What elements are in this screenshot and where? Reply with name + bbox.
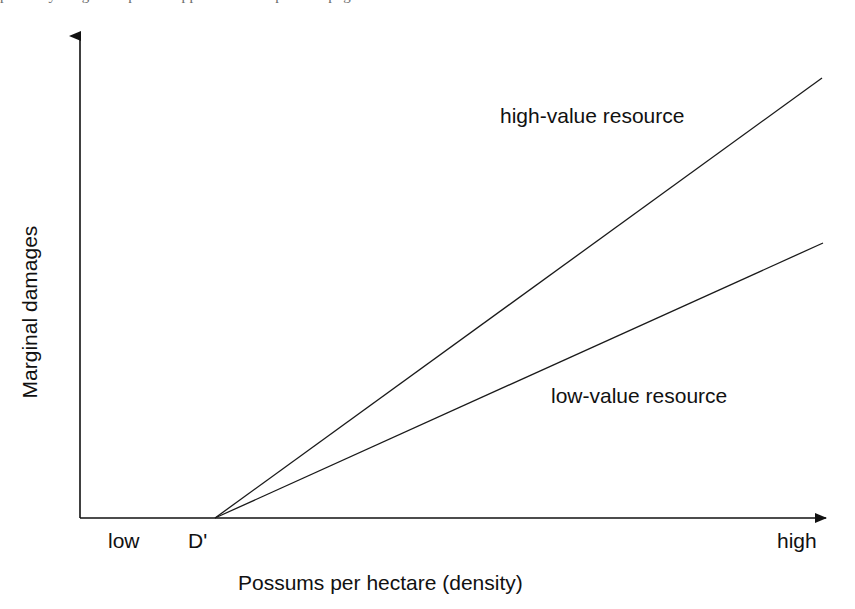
- figure-container: probably a figure caption clipped off th…: [0, 0, 855, 609]
- x-tick-label-d-prime: D': [188, 529, 207, 553]
- y-axis-title: Marginal damages: [18, 202, 42, 422]
- series-line-low-value: [215, 243, 823, 518]
- series-label-high-value: high-value resource: [500, 104, 684, 128]
- chart-canvas: [0, 0, 855, 609]
- series-line-high-value: [215, 78, 822, 518]
- series-label-low-value: low-value resource: [551, 384, 727, 408]
- x-tick-label-high: high: [777, 529, 817, 553]
- x-tick-label-low: low: [108, 529, 140, 553]
- x-axis-title: Possums per hectare (density): [238, 571, 523, 595]
